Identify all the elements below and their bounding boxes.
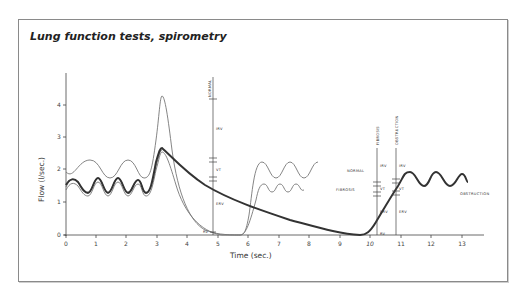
svg-text:9: 9 [338,240,342,247]
bar-label-fibrosis: FIBROSIS [376,126,380,145]
svg-text:8: 8 [307,240,311,247]
x-tick-labels: 0 1 2 3 4 5 6 7 8 9 10 11 12 13 [64,240,466,247]
bar-label-normal: NORMAL [208,80,212,97]
irv-label: IRV [216,127,223,131]
spirometry-chart: 0 1 2 3 4 0 1 2 3 4 5 6 7 8 9 10 11 12 1… [0,0,532,303]
y-axis-label: Flow (l/sec.) [37,157,46,202]
svg-text:5: 5 [216,240,220,247]
fibrosis-erv-label: ERV [380,210,388,214]
svg-text:0: 0 [57,231,61,238]
normal-curve [66,96,318,235]
svg-text:3: 3 [57,133,61,140]
svg-text:2: 2 [124,240,128,247]
fibrosis-vt-label: VT [380,187,386,191]
svg-text:11: 11 [397,240,405,247]
volume-bar-fibrosis [373,148,381,235]
svg-text:1: 1 [57,198,61,205]
svg-text:6: 6 [246,240,250,247]
svg-text:0: 0 [64,240,68,247]
normal-curve-label: NORMAL [347,169,364,173]
bar-label-obstruction: OBSTRUCTION [395,116,399,145]
svg-text:4: 4 [57,101,61,108]
obstruction-erv-label: ERV [399,210,407,214]
obstruction-vt-label: VT [399,187,405,191]
obstruction-irv-label: IRV [399,164,406,168]
x-axis-label: Time (sec.) [229,251,272,260]
y-tick-labels: 0 1 2 3 4 [57,101,61,238]
volume-bar-normal [209,77,217,235]
erv-label: ERV [216,202,224,206]
fibrosis-rv-label: RV [380,232,386,236]
fibrosis-curve-label: FIBROSIS [336,188,355,192]
svg-text:12: 12 [427,240,435,247]
svg-text:13: 13 [458,240,466,247]
svg-text:3: 3 [155,240,159,247]
vt-label: VT [216,168,222,172]
rv-label: RV [203,230,209,234]
obstruction-curve [66,148,468,235]
fibrosis-irv-label: IRV [380,164,387,168]
axes [63,73,484,238]
fibrosis-curve [66,152,304,235]
volume-bar-obstruction [392,148,400,235]
obstruction-curve-label: OBSTRUCTION [460,192,489,196]
svg-text:10: 10 [366,240,374,247]
svg-text:4: 4 [185,240,189,247]
svg-text:1: 1 [94,240,98,247]
svg-text:7: 7 [277,240,281,247]
svg-text:2: 2 [57,165,61,172]
